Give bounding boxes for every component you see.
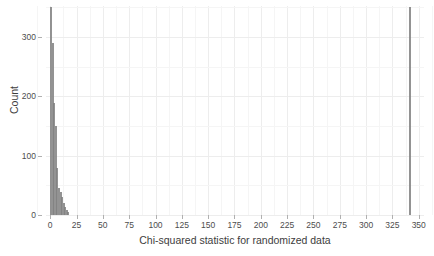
x-axis-tick-label: 125 xyxy=(175,221,189,230)
x-axis-tick-mark xyxy=(261,215,262,219)
y-axis-tick-mark xyxy=(38,156,42,157)
x-axis-tick-mark xyxy=(208,215,209,219)
x-axis-tick-label: 200 xyxy=(254,221,268,230)
x-axis-tick-mark xyxy=(129,215,130,219)
plot-panel xyxy=(46,6,424,215)
x-axis-tick-label: 75 xyxy=(124,221,133,230)
x-axis-tick-label: 175 xyxy=(227,221,241,230)
x-axis-tick-mark xyxy=(77,215,78,219)
x-axis-tick-mark xyxy=(340,215,341,219)
x-axis-tick-mark xyxy=(419,215,420,219)
gridline-horizontal-minor xyxy=(46,126,424,127)
gridline-horizontal xyxy=(46,37,424,38)
x-axis-tick-mark xyxy=(50,215,51,219)
x-axis-tick-label: 25 xyxy=(72,221,81,230)
gridline-horizontal-minor xyxy=(46,7,424,8)
gridline-vertical-minor xyxy=(432,6,433,215)
y-axis-tick-mark xyxy=(38,37,42,38)
x-axis-tick-label: 250 xyxy=(306,221,320,230)
chart-root: 0100200300 Count 02550751001251501752002… xyxy=(0,0,434,256)
y-axis-tick-label: 300 xyxy=(22,33,36,41)
x-axis-tick-mark xyxy=(313,215,314,219)
x-axis-tick-label: 150 xyxy=(201,221,215,230)
x-axis-tick-label: 0 xyxy=(48,221,53,230)
gridline-horizontal-minor xyxy=(46,67,424,68)
y-axis-tick-mark xyxy=(38,96,42,97)
histogram-bar xyxy=(409,7,411,215)
y-axis-title: Count xyxy=(8,50,20,150)
x-axis-tick-mark xyxy=(366,215,367,219)
x-axis-tick-label: 50 xyxy=(98,221,107,230)
gridline-horizontal xyxy=(46,96,424,97)
x-axis-tick-mark xyxy=(182,215,183,219)
x-axis: 0255075100125150175200225250275300325350 xyxy=(46,215,424,233)
y-axis-tick-label: 200 xyxy=(22,92,36,100)
x-axis-tick-mark xyxy=(103,215,104,219)
x-axis-tick-label: 300 xyxy=(359,221,373,230)
x-axis-tick-mark xyxy=(234,215,235,219)
x-axis-tick-label: 325 xyxy=(385,221,399,230)
x-axis-tick-mark xyxy=(392,215,393,219)
x-axis-tick-mark xyxy=(156,215,157,219)
y-axis-tick-label: 0 xyxy=(31,211,36,219)
x-axis-tick-label: 225 xyxy=(280,221,294,230)
x-axis-tick-label: 275 xyxy=(333,221,347,230)
x-axis-tick-label: 350 xyxy=(412,221,426,230)
y-axis-tick-label: 100 xyxy=(22,152,36,160)
x-axis-title: Chi-squared statistic for randomized dat… xyxy=(46,234,424,246)
x-axis-tick-mark xyxy=(287,215,288,219)
y-axis: 0100200300 xyxy=(0,6,42,215)
x-axis-tick-label: 100 xyxy=(148,221,162,230)
gridline-horizontal-minor xyxy=(46,185,424,186)
gridline-horizontal xyxy=(46,156,424,157)
y-axis-tick-mark xyxy=(38,215,42,216)
